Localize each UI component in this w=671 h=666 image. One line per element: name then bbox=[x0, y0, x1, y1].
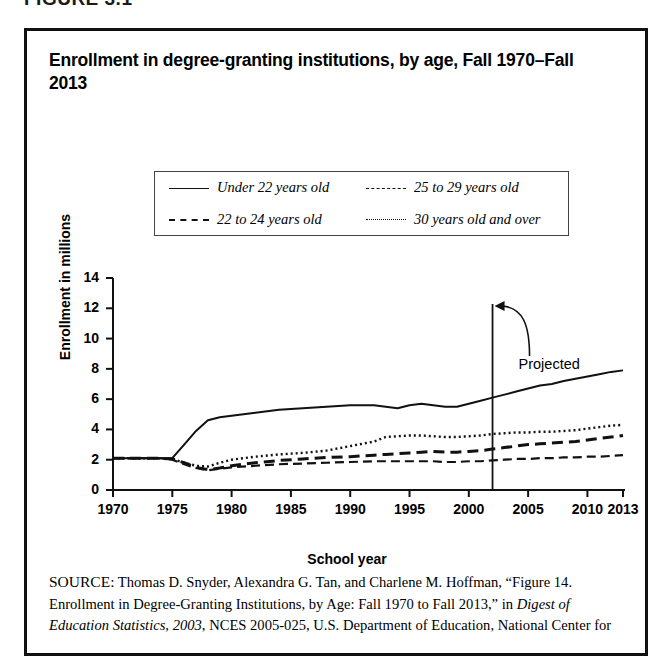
chart-title: Enrollment in degree-granting institutio… bbox=[49, 49, 609, 95]
legend-line-dashdot-icon bbox=[366, 183, 406, 193]
chart-svg bbox=[27, 31, 651, 659]
x-tick-label: 1970 bbox=[88, 501, 138, 517]
source-text-part-1: Thomas D. Snyder, Alexandra G. Tan, and … bbox=[49, 574, 572, 612]
x-axis-title: School year bbox=[87, 551, 607, 567]
x-tick-label: 1975 bbox=[147, 501, 197, 517]
projected-arrow-head bbox=[495, 301, 505, 311]
y-tick-label: 0 bbox=[73, 481, 99, 497]
legend-line-dotted-icon bbox=[366, 214, 406, 224]
legend-label: 22 to 24 years old bbox=[217, 211, 322, 228]
series-line bbox=[113, 370, 623, 458]
x-tick-label: 2010 bbox=[562, 501, 612, 517]
legend-label: 25 to 29 years old bbox=[414, 179, 519, 196]
x-tick-label: 1990 bbox=[325, 501, 375, 517]
source-prefix: SOURCE: bbox=[49, 573, 114, 590]
figure-number-label: FIGURE 3.1 bbox=[24, 0, 132, 10]
source-text-part-2: , NCES 2005-025, U.S. Department of Educ… bbox=[202, 617, 611, 633]
chart-legend: Under 22 years old 25 to 29 years old 22… bbox=[154, 171, 569, 236]
legend-label: 30 years old and over bbox=[414, 211, 540, 228]
x-tick-label: 2013 bbox=[598, 501, 648, 517]
y-tick-label: 14 bbox=[73, 269, 99, 285]
legend-row: Under 22 years old 25 to 29 years old bbox=[155, 172, 568, 204]
y-tick-label: 10 bbox=[73, 330, 99, 346]
y-tick-label: 4 bbox=[73, 420, 99, 436]
series-line bbox=[113, 425, 623, 467]
legend-item-30-and-over: 30 years old and over bbox=[362, 211, 568, 228]
projected-arrow-curve bbox=[503, 306, 530, 356]
legend-item-22-to-24: 22 to 24 years old bbox=[155, 211, 362, 228]
x-tick-label: 1980 bbox=[207, 501, 257, 517]
source-note: SOURCE: Thomas D. Snyder, Alexandra G. T… bbox=[49, 571, 629, 637]
y-axis-title: Enrollment in millions bbox=[57, 197, 73, 377]
y-tick-label: 6 bbox=[73, 390, 99, 406]
y-tick-label: 8 bbox=[73, 360, 99, 376]
legend-item-under-22: Under 22 years old bbox=[155, 179, 362, 196]
x-tick-label: 1995 bbox=[385, 501, 435, 517]
projected-annotation-label: Projected bbox=[519, 356, 580, 372]
legend-line-dashed-icon bbox=[169, 214, 209, 224]
series-line bbox=[113, 435, 623, 469]
figure-box: Enrollment in degree-granting institutio… bbox=[24, 28, 648, 656]
legend-line-solid-icon bbox=[169, 183, 209, 193]
y-tick-label: 12 bbox=[73, 299, 99, 315]
legend-row: 22 to 24 years old 30 years old and over bbox=[155, 204, 568, 236]
legend-label: Under 22 years old bbox=[217, 179, 329, 196]
x-tick-label: 2005 bbox=[503, 501, 553, 517]
x-tick-label: 1985 bbox=[266, 501, 316, 517]
legend-item-25-to-29: 25 to 29 years old bbox=[362, 179, 568, 196]
y-tick-label: 2 bbox=[73, 451, 99, 467]
chart-plot-area: Enrollment in millions School year Proje… bbox=[27, 31, 651, 659]
x-tick-label: 2000 bbox=[444, 501, 494, 517]
series-line bbox=[113, 455, 623, 470]
